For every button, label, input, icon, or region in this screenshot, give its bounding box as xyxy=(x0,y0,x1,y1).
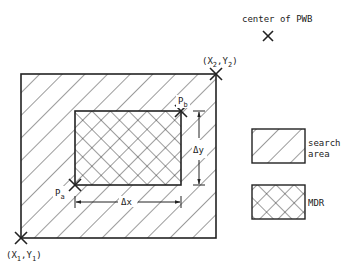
center-of-pwb-label: center of PWB xyxy=(242,14,312,24)
legend-mdr-swatch xyxy=(252,185,305,219)
diagram-canvas: center of PWB (X2,Y2) (X1,Y1) Pa Pb Δx Δ… xyxy=(0,0,352,277)
corner-x1y1-label: (X1,Y1) xyxy=(6,250,42,263)
legend-search-area-label-2: area xyxy=(308,149,330,159)
mdr-rect xyxy=(75,111,181,185)
delta-x-label: Δx xyxy=(121,197,132,207)
legend-mdr-label: MDR xyxy=(308,198,325,208)
legend-search-area-swatch xyxy=(252,129,305,163)
corner-x2y2-label: (X2,Y2) xyxy=(202,56,238,69)
legend: search area MDR xyxy=(252,129,341,219)
center-cross-icon xyxy=(263,31,273,41)
delta-y-label: Δy xyxy=(193,145,204,155)
legend-search-area-label-1: search xyxy=(308,138,341,148)
